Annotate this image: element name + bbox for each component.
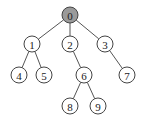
edge-0-3 xyxy=(76,20,99,39)
tree-node-8: 8 xyxy=(62,98,78,114)
tree-node-7: 7 xyxy=(119,67,135,83)
tree-node-9: 9 xyxy=(90,98,106,114)
node-label: 8 xyxy=(67,101,73,113)
edge-6-8 xyxy=(73,82,80,98)
node-label: 0 xyxy=(67,10,73,22)
tree-node-4: 4 xyxy=(11,67,27,83)
edge-0-1 xyxy=(38,20,63,39)
node-label: 5 xyxy=(41,70,47,82)
tree-node-6: 6 xyxy=(76,67,92,83)
edges-layer xyxy=(22,20,122,99)
tree-node-5: 5 xyxy=(36,67,52,83)
tree-node-2: 2 xyxy=(62,36,78,52)
node-label: 2 xyxy=(67,39,73,51)
tree-node-3: 3 xyxy=(97,36,113,52)
edge-3-7 xyxy=(110,51,123,69)
edge-2-6 xyxy=(73,51,80,67)
node-label: 9 xyxy=(95,101,101,113)
tree-diagram: 0123456789 xyxy=(0,0,142,130)
tree-node-0: 0 xyxy=(62,7,78,23)
node-label: 1 xyxy=(29,39,35,51)
node-label: 3 xyxy=(102,39,108,51)
edge-6-9 xyxy=(87,82,94,98)
node-label: 4 xyxy=(16,70,22,82)
edge-1-4 xyxy=(22,51,29,67)
node-label: 7 xyxy=(124,70,130,82)
edge-1-5 xyxy=(35,51,41,67)
node-label: 6 xyxy=(81,70,87,82)
tree-node-1: 1 xyxy=(24,36,40,52)
